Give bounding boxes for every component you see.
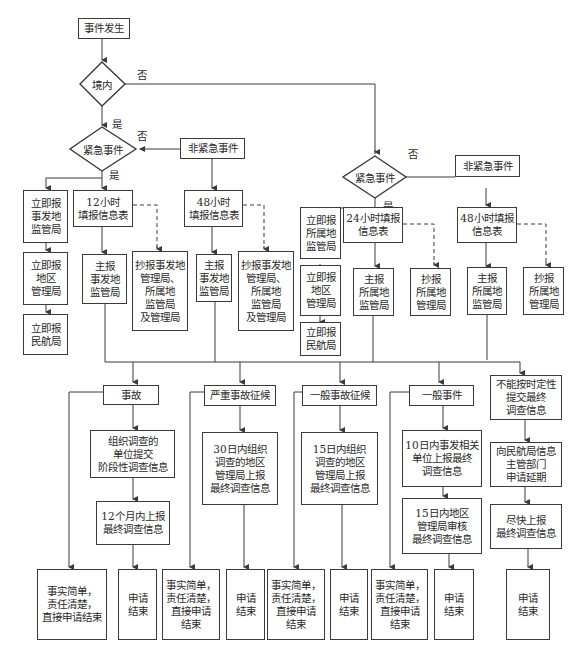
copy-report-48h-left-box: 抄报事发地 管理局、 所属地 监管局 及管理局 [238,251,294,331]
general-incident-final-box: 15日内组织 调查的地区 管理局上报 最终调查信息 [301,432,378,505]
apply-extension-box: 向民航局信息 主管部门 申请延期 [490,442,562,487]
right-report-caac-box: 立即报 民航局 [300,322,341,356]
serious-incident-final-box: 30日内组织 调查的地区 管理局上报 最终调查信息 [202,432,278,505]
general-event-simple-end-box: 事实简单， 责任清楚， 直接申请 结束 [371,569,428,640]
main-report-24h-box: 主报 所属地 监管局 [353,268,394,316]
main-report-48h-left-box: 主报 事发地 监管局 [196,254,232,302]
main-report-12h-box: 主报 事发地 监管局 [82,254,127,304]
serious-incident-simple-end-box: 事实简单， 责任清楚， 直接申请 结束 [162,569,220,640]
general-incident-simple-end-box: 事实简单， 责任清楚， 直接申请 结束 [267,569,325,640]
accident-simple-end-box: 事实简单， 责任清楚， 直接申请结束 [37,569,107,640]
domestic-decision-label: 境内 [82,76,122,92]
right-urgent-decision-label: 紧急事件 [343,169,406,185]
cannot-submit-on-time-box: 不能按时定性 提交最终 调查信息 [490,375,562,420]
right-report-regional-admin-box: 立即报 地区 管理局 [300,265,341,316]
accident-final-12m-box: 12个月内上报 最终调查信息 [96,501,170,545]
general-event-end-box: 申请 结束 [434,569,474,640]
category-general-incident-box: 一般事故征候 [302,385,377,406]
right-urgent-no-label: 否 [408,146,418,161]
domestic-yes-label: 是 [112,116,122,131]
left-urgent-no-label: 否 [137,128,147,143]
right-non-urgent-box: 非紧急事件 [455,155,520,177]
left-report-regional-admin-box: 立即报 地区 管理局 [23,252,68,305]
domestic-no-label: 否 [137,67,147,82]
copy-report-12h-box: 抄报事发地 管理局、 所属地 监管局 及管理局 [132,251,188,331]
serious-incident-end-box: 申请 结束 [226,569,265,640]
submit-final-asap-box: 尽快上报 最终调查信息 [490,504,562,549]
extension-end-box: 申请 结束 [506,569,550,640]
form-48h-right-box: 48小时填报 信息表 [457,207,517,243]
general-event-10d-report-box: 10日内事发相关 单位上报最终 调查信息 [402,430,482,487]
flowchart-canvas: 事件发生 境内 否 是 紧急事件 否 是 非紧急事件 立即报 事发地 监管局 立… [0,0,586,659]
left-urgent-yes-label: 是 [109,167,119,182]
form-24h-box: 24小时填报 信息表 [343,207,403,243]
form-12h-box: 12小时 填报信息表 [73,190,133,227]
accident-stage-report-box: 组织调查的 单位提交 阶段性调查信息 [90,430,175,478]
form-48h-left-box: 48小时 填报信息表 [184,190,243,227]
accident-end-box: 申请 结束 [118,569,157,640]
copy-report-48h-right-box: 抄报 所属地 管理局 [523,267,564,315]
category-serious-incident-box: 严重事故征候 [204,385,276,406]
general-event-15d-review-box: 15日内地区 管理局审核 最终调查信息 [402,498,482,554]
category-accident-box: 事故 [103,385,159,405]
main-report-48h-right-box: 主报 所属地 监管局 [467,267,507,315]
start-event-box: 事件发生 [78,18,130,39]
right-report-local-bureau-box: 立即报 所属地 监管局 [300,207,341,259]
general-incident-end-box: 申请 结束 [330,569,368,640]
left-non-urgent-box: 非紧急事件 [180,138,245,159]
category-general-event-box: 一般事件 [409,385,474,406]
left-report-caac-box: 立即报 民航局 [23,314,68,355]
left-urgent-decision-label: 紧急事件 [70,141,136,157]
left-report-site-bureau-box: 立即报 事发地 监管局 [23,190,68,243]
copy-report-24h-box: 抄报 所属地 管理局 [410,268,451,316]
